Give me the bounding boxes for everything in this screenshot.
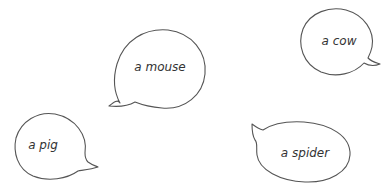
bubble-label-cow: a cow xyxy=(322,34,357,48)
bubble-label-pig: a pig xyxy=(28,138,58,152)
bubble-label-mouse: a mouse xyxy=(134,60,185,74)
bubbles-canvas xyxy=(0,0,392,190)
bubble-label-spider: a spider xyxy=(281,146,329,160)
